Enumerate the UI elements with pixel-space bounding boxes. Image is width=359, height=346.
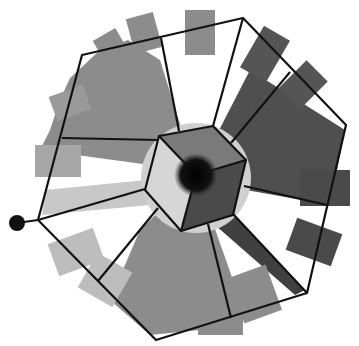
- center-node: [174, 153, 218, 197]
- polyhedral-fan-diagram: [0, 0, 359, 346]
- anchor-node: [9, 215, 25, 231]
